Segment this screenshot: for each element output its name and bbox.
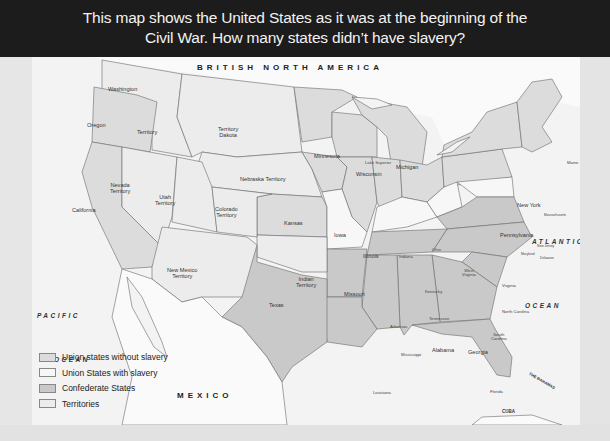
- label-texas: Texas: [269, 303, 284, 309]
- question-banner: This map shows the United States as it w…: [0, 0, 610, 57]
- label-west-virginia: WestVirginia: [462, 269, 476, 278]
- label-michigan: Michigan: [396, 165, 418, 171]
- legend-item-territories: Territories: [39, 397, 168, 411]
- question-line-2: Civil War. How many states didn’t have s…: [0, 28, 610, 48]
- label-utah-territory: UtahTerritory: [155, 195, 175, 207]
- paper-margin-left: [0, 57, 32, 441]
- swatch-union-free: [39, 353, 56, 362]
- label-california: California: [72, 208, 96, 214]
- map-legend: Union states without slavery Union State…: [39, 350, 168, 412]
- label-mexico: MEXICO: [177, 392, 233, 400]
- kansas: [257, 194, 327, 237]
- label-georgia: Georgia: [468, 350, 488, 356]
- label-dakota-territory: TerritoryDakota: [218, 127, 238, 139]
- label-north-carolina: North Carolina: [502, 310, 529, 314]
- label-illinois: Illinois: [363, 254, 379, 260]
- label-new-jersey: New Jersey: [537, 245, 554, 248]
- label-new-mexico-territory: New MexicoTerritory: [167, 268, 197, 280]
- label-ohio: Ohio: [432, 248, 441, 252]
- label-nevada-territory: NevadaTerritory: [110, 183, 130, 195]
- civil-war-map: BRITISH NORTH AMERICA MEXICO PACIFIC OCE…: [32, 57, 580, 425]
- label-missouri: Missouri: [344, 292, 365, 298]
- label-new-york: New York: [517, 203, 541, 209]
- label-arkansas: Arkansas: [390, 325, 407, 329]
- label-pacific: PACIFIC: [37, 313, 80, 320]
- label-colorado-territory: ColoradoTerritory: [215, 207, 238, 219]
- label-tennessee: Tennessee: [429, 317, 449, 321]
- label-kentucky: Kentucky: [425, 290, 442, 294]
- swatch-territories: [39, 399, 56, 408]
- label-lake-superior: Lake Superior: [365, 161, 391, 165]
- label-maryland: Maryland: [521, 253, 535, 256]
- florida: [412, 319, 512, 377]
- label-indian-territory: IndianTerritory: [296, 277, 316, 289]
- label-cuba: CUBA: [502, 410, 515, 415]
- label-alabama: Alabama: [432, 348, 454, 354]
- label-delaware: Delaware: [540, 257, 554, 260]
- label-territory: Territory: [137, 130, 157, 136]
- label-iowa: Iowa: [334, 233, 346, 239]
- swatch-union-slave: [39, 368, 56, 377]
- label-oregon: Oregon: [87, 123, 106, 129]
- legend-item-union-slave: Union States with slavery: [39, 366, 168, 380]
- label-kansas: Kansas: [284, 221, 303, 227]
- label-nebraska-territory: Nebraska Territory: [240, 177, 286, 183]
- label-indiana: Indiana: [399, 255, 413, 259]
- label-minnesota: Minnesota: [314, 154, 340, 160]
- label-florida: Florida: [490, 390, 503, 394]
- label-british-north-america: BRITISH NORTH AMERICA: [197, 64, 383, 72]
- label-pennsylvania: Pennsylvania: [500, 233, 533, 239]
- arkansas: [327, 249, 367, 297]
- paper-margin-bottom: [0, 425, 610, 441]
- swatch-confederate: [39, 384, 56, 393]
- label-south-carolina: SouthCarolina: [491, 333, 507, 342]
- alabama: [397, 255, 440, 335]
- label-wisconsin: Wisconsin: [356, 172, 382, 178]
- question-line-1: This map shows the United States as it w…: [0, 8, 610, 28]
- label-massachusetts: Massachusetts: [544, 214, 566, 217]
- label-louisiana: Louisiana: [373, 391, 391, 395]
- legend-item-confederate: Confederate States: [39, 381, 168, 395]
- label-atlantic-ocean: OCEAN: [525, 303, 561, 310]
- label-virginia: Virginia: [502, 284, 516, 288]
- label-maine: Maine: [567, 161, 578, 165]
- legend-item-union-free: Union states without slavery: [39, 350, 168, 364]
- paper-margin-right: [580, 57, 610, 441]
- label-mississippi: Mississippi: [401, 353, 421, 357]
- label-washington: Washington: [108, 87, 137, 93]
- dakota-territory: [177, 74, 302, 157]
